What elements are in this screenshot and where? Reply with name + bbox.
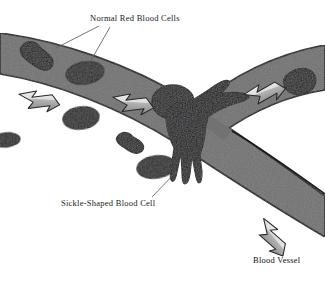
label-normal-red-blood-cells: Normal Red Blood Cells bbox=[90, 14, 180, 23]
flow-arrow-icon bbox=[253, 215, 292, 260]
label-sickle-shaped-blood-cell: Sickle-Shaped Blood Cell bbox=[61, 199, 155, 208]
flow-arrow-icon bbox=[17, 88, 61, 113]
red-blood-cell-icon bbox=[0, 132, 21, 149]
label-blood-vessel: Blood Vessel bbox=[253, 256, 300, 265]
blood-vessel-diagram: Normal Red Blood Cells Sickle-Shaped Blo… bbox=[0, 0, 325, 290]
red-blood-cell-icon bbox=[62, 105, 100, 131]
leader-line-normal-cells-left bbox=[56, 26, 99, 48]
red-blood-cell-icon bbox=[117, 133, 144, 154]
diagram-canvas bbox=[0, 0, 325, 290]
